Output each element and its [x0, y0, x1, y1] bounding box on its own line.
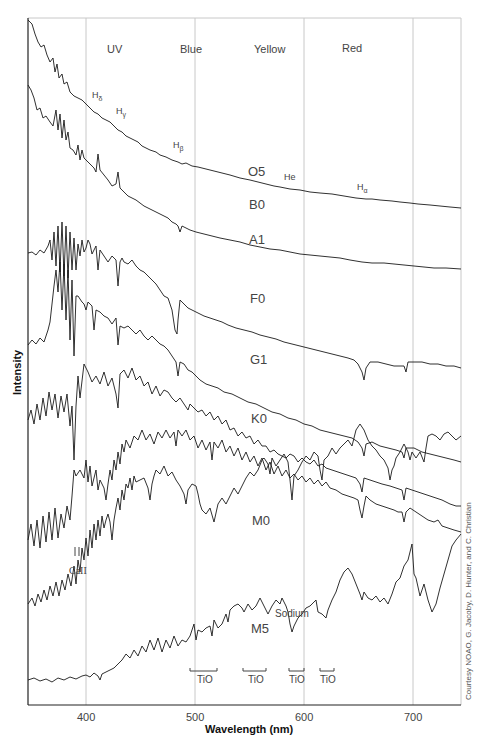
spectral-type-f0: F0 — [250, 291, 265, 306]
series-b0 — [28, 85, 461, 269]
line-label-h-delta: Hδ — [92, 90, 102, 102]
y-axis-title: Intensity — [11, 350, 23, 395]
x-tick-400: 400 — [77, 711, 95, 723]
tio-label-1: TiO — [197, 674, 213, 685]
tio-label-2: TiO — [248, 674, 264, 685]
x-tick-500: 500 — [186, 711, 204, 723]
x-axis-title: Wavelength (nm) — [205, 723, 293, 735]
line-label-h-beta: Hβ — [173, 140, 184, 152]
line-label-h-gamma: Hγ — [116, 106, 126, 118]
band-label-red: Red — [342, 42, 362, 54]
tio-label-3: TiO — [289, 674, 305, 685]
series-g1 — [28, 364, 461, 506]
series-m5 — [28, 534, 461, 682]
band-label-uv: UV — [107, 43, 122, 55]
line-label-h-alpha: Hα — [357, 182, 368, 194]
x-tick-700: 700 — [404, 711, 422, 723]
spectral-type-m5: M5 — [251, 621, 269, 636]
band-label-blue: Blue — [180, 43, 202, 55]
image-credit: Courtesy NOAO, G. Jacoby, D. Hunter, and… — [464, 502, 473, 700]
band-label-yellow: Yellow — [254, 43, 285, 55]
spectral-type-b0: B0 — [249, 197, 265, 212]
line-label-caii: CaII — [69, 565, 87, 576]
series-f0 — [28, 262, 461, 462]
x-tick-600: 600 — [295, 711, 313, 723]
caii-markers — [75, 547, 79, 556]
line-label-he: He — [284, 172, 296, 182]
spectral-type-m0: M0 — [252, 513, 270, 528]
spectral-type-o5: O5 — [248, 164, 265, 179]
series-a1 — [28, 222, 461, 380]
series-o5 — [28, 20, 461, 208]
spectral-type-g1: G1 — [250, 352, 267, 367]
line-label-sodium: Sodium — [275, 608, 309, 619]
series-k0 — [28, 430, 461, 548]
series-m0 — [28, 424, 461, 606]
tio-brackets — [190, 668, 334, 671]
spectral-type-a1: A1 — [249, 232, 265, 247]
tio-label-4: TiO — [320, 674, 336, 685]
spectra-chart — [0, 0, 482, 737]
spectral-type-k0: K0 — [251, 411, 267, 426]
